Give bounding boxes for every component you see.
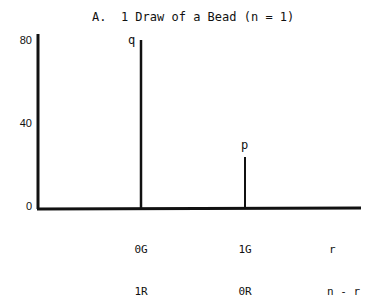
x-axis-label: r n - r	[327, 215, 377, 299]
x-axis-label-top: r	[327, 243, 377, 257]
x-axis-label-bottom: n - r	[327, 285, 377, 299]
bar-label-q: q	[128, 33, 135, 47]
x-category-1: 1G 0R	[225, 215, 265, 299]
x-category-0-top: 0G	[121, 243, 161, 257]
x-category-1-bottom: 0R	[225, 285, 265, 299]
x-category-0: 0G 1R	[121, 215, 161, 299]
bar-label-p: p	[241, 138, 248, 152]
x-category-0-bottom: 1R	[121, 285, 161, 299]
y-tick-40: 40	[4, 117, 32, 129]
y-tick-80: 80	[4, 34, 32, 46]
x-axis	[37, 208, 361, 209]
y-tick-0: 0	[4, 200, 32, 212]
x-category-1-top: 1G	[225, 243, 265, 257]
